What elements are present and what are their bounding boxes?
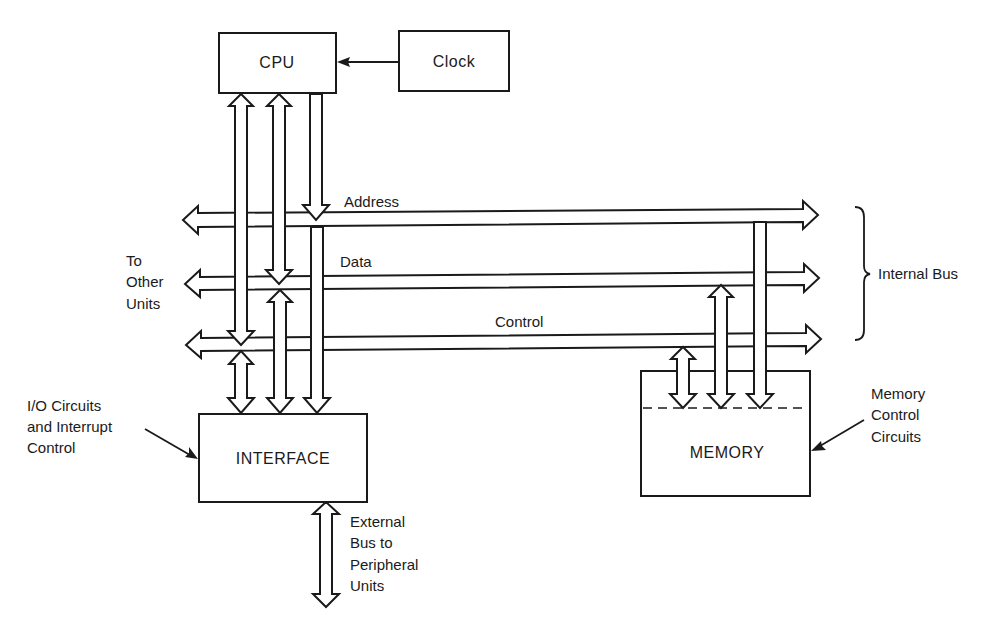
- memory-arrow-overlay: [670, 368, 773, 408]
- clock-to-cpu-arrow: [337, 57, 399, 67]
- svg-text:I/O Circuits: I/O Circuits: [27, 397, 101, 414]
- svg-text:Units: Units: [350, 577, 384, 594]
- clock-block: Clock: [399, 31, 509, 91]
- interface-address-link: [304, 227, 330, 413]
- to-other-units-label: To Other Units: [126, 252, 164, 312]
- svg-text:Units: Units: [126, 295, 160, 312]
- address-bus-label: Address: [344, 193, 399, 210]
- control-bus-label: Control: [495, 313, 543, 330]
- clock-label: Clock: [433, 53, 476, 70]
- io-circuits-annotation: I/O Circuits and Interrupt Control: [27, 397, 198, 459]
- data-bus-label: Data: [340, 253, 372, 270]
- external-bus-annotation: External Bus to Peripheral Units: [350, 513, 418, 594]
- interface-control-link: [228, 351, 254, 413]
- interface-block: INTERFACE: [199, 414, 367, 502]
- cpu-label: CPU: [259, 54, 294, 71]
- external-bus-arrow: [313, 502, 339, 607]
- svg-text:External: External: [350, 513, 405, 530]
- cpu-block: CPU: [219, 33, 336, 93]
- interface-label: INTERFACE: [236, 450, 330, 467]
- svg-text:Peripheral: Peripheral: [350, 556, 418, 573]
- internal-bus-label: Internal Bus: [878, 265, 958, 282]
- cpu-address-link: [303, 94, 329, 220]
- svg-text:and Interrupt: and Interrupt: [27, 418, 113, 435]
- memory-control-annotation: Memory Control Circuits: [811, 385, 926, 451]
- svg-text:Control: Control: [27, 439, 75, 456]
- cpu-data-link: [266, 94, 292, 284]
- bus-architecture-diagram: CPU Clock INTERFACE MEMORY Address Data …: [0, 0, 1005, 637]
- svg-text:Other: Other: [126, 273, 164, 290]
- interface-data-link: [267, 290, 293, 413]
- svg-text:Circuits: Circuits: [871, 428, 921, 445]
- svg-text:Memory: Memory: [871, 385, 926, 402]
- svg-text:Bus to: Bus to: [350, 534, 393, 551]
- memory-label: MEMORY: [690, 444, 765, 461]
- svg-text:Control: Control: [871, 406, 919, 423]
- svg-text:To: To: [126, 252, 142, 269]
- internal-bus-brace: Internal Bus: [855, 207, 958, 340]
